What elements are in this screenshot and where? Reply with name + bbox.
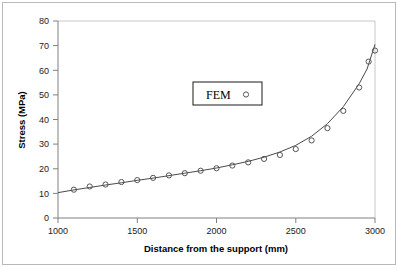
x-tick-label-1000: 1000 <box>48 226 68 236</box>
stress-distance-chart: 0 10 20 30 40 50 60 70 80 1000 1500 2000… <box>0 0 400 268</box>
y-axis-ticks <box>53 21 58 218</box>
y-tick-label-40: 40 <box>39 115 49 125</box>
y-tick-label-0: 0 <box>44 213 49 223</box>
y-tick-label-50: 50 <box>39 90 49 100</box>
plot-area-background <box>58 21 375 218</box>
legend-label-fem: FEM <box>206 88 231 102</box>
legend: FEM <box>193 82 262 105</box>
x-axis-ticks <box>58 218 375 223</box>
y-tick-label-80: 80 <box>39 16 49 26</box>
x-tick-label-2000: 2000 <box>206 226 226 236</box>
y-axis-title: Stress (MPa) <box>16 91 27 149</box>
chart-screenshot: 0 10 20 30 40 50 60 70 80 1000 1500 2000… <box>0 0 400 268</box>
x-axis-tick-labels: 1000 1500 2000 2500 3000 <box>48 226 385 236</box>
x-axis-title: Distance from the support (mm) <box>144 243 288 254</box>
x-tick-label-3000: 3000 <box>365 226 385 236</box>
y-tick-label-70: 70 <box>39 41 49 51</box>
y-tick-label-60: 60 <box>39 66 49 76</box>
y-tick-label-30: 30 <box>39 139 49 149</box>
y-axis-tick-labels: 0 10 20 30 40 50 60 70 80 <box>39 16 49 223</box>
y-tick-label-10: 10 <box>39 189 49 199</box>
x-tick-label-2500: 2500 <box>286 226 306 236</box>
y-tick-label-20: 20 <box>39 164 49 174</box>
x-tick-label-1500: 1500 <box>127 226 147 236</box>
